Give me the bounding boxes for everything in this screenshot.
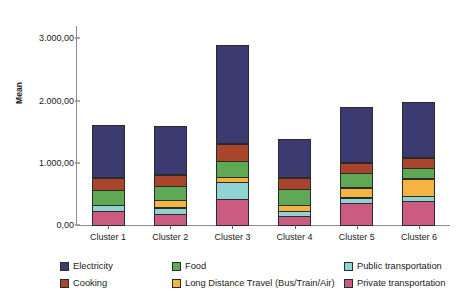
stacked-bar [216, 45, 249, 225]
legend-item: Private transportation [344, 279, 456, 288]
y-axis-tick-label: 3.000,00 [39, 33, 74, 43]
bar-segment [216, 182, 249, 199]
legend-swatch-icon [172, 262, 181, 271]
chart-legend: ElectricityFoodPublic transportationCook… [60, 258, 456, 294]
bar-segment [340, 173, 373, 188]
y-axis-tick-label: 1.000,00 [39, 158, 74, 168]
stacked-bar [278, 139, 311, 225]
legend-label: Food [185, 262, 206, 271]
bar-segment [216, 161, 249, 178]
y-axis-tick-label: 2.000,00 [39, 96, 74, 106]
bar-segment [278, 139, 311, 178]
x-axis-tick-label: Cluster 3 [214, 232, 250, 242]
legend-item: Public transportation [344, 262, 456, 271]
bar-segment [402, 179, 435, 197]
bar-segment [154, 126, 187, 175]
x-axis-tick-mark [108, 225, 109, 229]
legend-swatch-icon [172, 279, 181, 288]
bar-segment [92, 211, 125, 226]
x-axis-tick-mark [232, 225, 233, 229]
x-axis-tick-mark [357, 225, 358, 229]
x-axis-tick-mark [419, 225, 420, 229]
x-axis-tick-label: Cluster 4 [277, 232, 313, 242]
stacked-bar [402, 102, 435, 225]
legend-label: Public transportation [357, 262, 442, 271]
bar-segment [340, 203, 373, 226]
stacked-bar [154, 126, 187, 225]
bars-container [77, 26, 450, 225]
bar-segment [402, 102, 435, 158]
plot-region: Mean 0,001.000,002.000,003.000,00 Cluste… [0, 0, 462, 250]
y-axis-tick-label: 0,00 [56, 220, 74, 230]
y-axis-tick-labels: 0,001.000,002.000,003.000,00 [22, 0, 74, 250]
legend-label: Electricity [73, 262, 113, 271]
legend-item: Food [172, 262, 344, 271]
legend-label: Long Distance Travel (Bus/Train/Air) [185, 279, 335, 288]
x-axis-tick-mark [170, 225, 171, 229]
bar-segment [216, 45, 249, 144]
bar-segment [154, 186, 187, 201]
x-axis-tick-mark [295, 225, 296, 229]
legend-item: Electricity [60, 262, 172, 271]
x-axis-tick-label: Cluster 1 [90, 232, 126, 242]
x-axis-tick-label: Cluster 2 [152, 232, 188, 242]
legend-swatch-icon [60, 262, 69, 271]
x-axis-tick-label: Cluster 5 [339, 232, 375, 242]
stacked-bar-chart: Mean 0,001.000,002.000,003.000,00 Cluste… [0, 0, 462, 299]
bar-segment [278, 189, 311, 205]
bar-segment [402, 201, 435, 226]
legend-item: Long Distance Travel (Bus/Train/Air) [172, 279, 344, 288]
bar-segment [92, 178, 125, 190]
x-axis-line [76, 225, 450, 226]
legend-swatch-icon [344, 279, 353, 288]
bar-segment [340, 107, 373, 163]
bar-segment [92, 125, 125, 178]
legend-item: Cooking [60, 279, 172, 288]
x-axis-tick-label: Cluster 6 [401, 232, 437, 242]
bar-segment [216, 199, 249, 226]
stacked-bar [92, 125, 125, 225]
legend-swatch-icon [344, 262, 353, 271]
bar-segment [92, 190, 125, 206]
bar-segment [216, 144, 249, 162]
legend-label: Private transportation [357, 279, 445, 288]
legend-label: Cooking [73, 279, 107, 288]
legend-swatch-icon [60, 279, 69, 288]
stacked-bar [340, 107, 373, 225]
